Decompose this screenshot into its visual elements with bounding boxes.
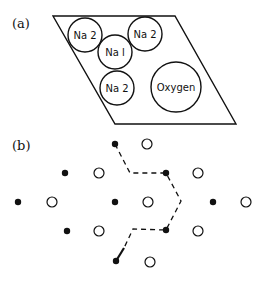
filled-dot-icon [112,199,118,205]
atom-oxygen: Oxygen [151,62,201,112]
diffusion-path-dashed [115,144,181,248]
open-circle-icon [94,226,104,236]
open-circle-icon [94,168,104,178]
open-circle-icon [241,197,251,207]
oxygen-sites-open [47,139,251,267]
filled-dot-icon [113,258,119,264]
atom-label: Na 2 [73,30,96,41]
atom-label: Oxygen [157,82,196,93]
atom-na-2: Na 2 [68,18,102,52]
atom-na-2: Na 2 [128,17,162,51]
filled-dot-icon [64,228,70,234]
open-circle-icon [193,168,203,178]
open-circle-icon [145,257,155,267]
atom-label: Na 2 [133,29,156,40]
atom-na-2: Na 2 [100,71,134,105]
atom-label: Na l [105,47,125,58]
panel-b-label: (b) [12,138,30,153]
filled-dot-icon [62,170,68,176]
atom-spheres: Na 2Na 2Na lNa 2Oxygen [68,17,201,112]
filled-dot-icon [15,199,21,205]
open-circle-icon [193,226,203,236]
open-circle-icon [142,139,152,149]
open-circle-icon [143,197,153,207]
open-circle-icon [47,197,57,207]
atom-na-l: Na l [98,35,132,69]
panel-b: (b) [12,138,251,267]
crystal-structure-figure: (a) Na 2Na 2Na lNa 2Oxygen (b) [0,0,266,284]
filled-dot-icon [112,141,118,147]
sodium-sites-filled [15,141,216,264]
panel-a: (a) Na 2Na 2Na lNa 2Oxygen [12,16,236,124]
filled-dot-icon [163,227,169,233]
filled-dot-icon [210,199,216,205]
atom-label: Na 2 [105,83,128,94]
panel-a-label: (a) [12,16,30,31]
filled-dot-icon [163,170,169,176]
